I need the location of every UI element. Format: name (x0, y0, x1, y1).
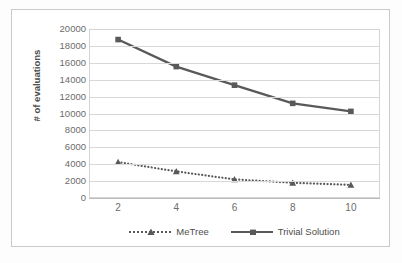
x-tick-label: 6 (215, 202, 255, 213)
y-tick-label: 12000 (38, 92, 86, 101)
y-tick-label: 4000 (38, 159, 86, 168)
plot-area (89, 29, 380, 198)
y-tick-label: 6000 (38, 142, 86, 151)
y-tick-label: 0 (38, 193, 86, 202)
x-tick-label: 10 (331, 202, 371, 213)
y-tick-label: 10000 (38, 109, 86, 118)
gridline (89, 198, 380, 199)
x-axis-tick-labels: 246810 (89, 202, 380, 218)
y-tick-label: 8000 (38, 125, 86, 134)
y-axis-tick-labels: 2000018000160001400012000100008000600040… (34, 29, 86, 198)
y-tick-label: 2000 (38, 176, 86, 185)
legend-item-trivial-solution: Trivial Solution (231, 226, 340, 237)
legend-marker-solid-square-icon (231, 226, 273, 237)
legend-marker-dotted-triangle-icon (129, 226, 171, 237)
y-tick-label: 20000 (38, 24, 86, 33)
x-tick-label: 8 (273, 202, 313, 213)
y-tick-label: 18000 (38, 41, 86, 50)
chart-legend: MeTree Trivial Solution (89, 222, 380, 240)
chart-figure: # of evaluations 20000180001600014000120… (0, 0, 402, 263)
y-tick-label: 14000 (38, 75, 86, 84)
x-tick-label: 2 (98, 202, 138, 213)
y-tick-label: 16000 (38, 58, 86, 67)
legend-item-metree: MeTree (129, 226, 208, 237)
legend-label-metree: MeTree (176, 226, 208, 237)
plot-border (89, 29, 380, 198)
x-tick-label: 4 (156, 202, 196, 213)
chart-frame: # of evaluations 20000180001600014000120… (11, 9, 390, 247)
legend-label-trivial-solution: Trivial Solution (278, 226, 340, 237)
